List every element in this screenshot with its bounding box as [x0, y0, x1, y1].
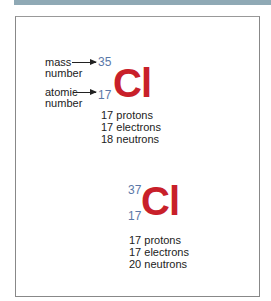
- mass-number-arrow: [72, 62, 96, 63]
- isotope2-electrons: 17 electrons: [129, 246, 189, 258]
- isotope1-neutrons: 18 neutrons: [101, 133, 161, 145]
- isotope2-symbol: Cl: [141, 181, 179, 221]
- isotope2-atomic-number: 17: [128, 210, 141, 222]
- isotope1-mass-number: 35: [98, 56, 111, 68]
- isotope2-neutrons: 20 neutrons: [129, 258, 189, 270]
- isotope2-mass-number: 37: [128, 184, 141, 196]
- mass-number-label: mass number: [45, 57, 82, 79]
- mass-number-label-line2: number: [45, 68, 82, 79]
- isotope2-facts: 17 protons 17 electrons 20 neutrons: [129, 234, 189, 270]
- isotope1-protons: 17 protons: [101, 109, 161, 121]
- isotope1-facts: 17 protons 17 electrons 18 neutrons: [101, 109, 161, 145]
- atomic-number-label: atomic number: [45, 87, 82, 109]
- isotope1-symbol: Cl: [113, 63, 151, 103]
- atomic-number-arrow: [73, 92, 96, 93]
- atomic-number-label-line2: number: [45, 98, 82, 109]
- isotope2-protons: 17 protons: [129, 234, 189, 246]
- isotope1-atomic-number: 17: [98, 89, 111, 101]
- isotope1-electrons: 17 electrons: [101, 121, 161, 133]
- top-band: [14, 0, 271, 5]
